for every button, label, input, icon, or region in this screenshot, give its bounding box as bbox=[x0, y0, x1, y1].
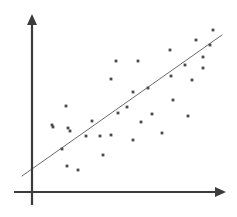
data-point bbox=[51, 124, 54, 127]
data-point bbox=[61, 148, 64, 151]
data-point bbox=[170, 75, 173, 78]
data-point bbox=[137, 60, 140, 63]
data-point bbox=[202, 67, 205, 70]
data-point bbox=[91, 120, 94, 123]
scatter-plot-figure bbox=[0, 0, 237, 217]
data-point bbox=[99, 135, 102, 138]
data-point bbox=[102, 154, 105, 157]
data-point bbox=[212, 29, 215, 32]
data-point bbox=[209, 44, 212, 47]
data-point bbox=[67, 127, 70, 130]
data-point bbox=[132, 139, 135, 142]
data-point bbox=[202, 56, 205, 59]
data-point bbox=[110, 78, 113, 81]
data-point bbox=[65, 105, 68, 108]
data-point bbox=[69, 130, 72, 133]
data-point bbox=[195, 39, 198, 42]
data-point bbox=[140, 121, 143, 124]
data-point bbox=[77, 169, 80, 172]
data-point bbox=[117, 112, 120, 115]
data-point bbox=[191, 79, 194, 82]
data-point bbox=[66, 165, 69, 168]
data-point bbox=[110, 134, 113, 137]
data-point bbox=[126, 106, 129, 109]
data-point bbox=[187, 115, 190, 118]
data-point bbox=[85, 135, 88, 138]
data-point bbox=[172, 99, 175, 102]
data-point bbox=[115, 60, 118, 63]
data-point bbox=[169, 49, 172, 52]
data-point bbox=[151, 113, 154, 116]
plot-canvas bbox=[0, 0, 237, 217]
data-point bbox=[132, 91, 135, 94]
data-point bbox=[184, 64, 187, 67]
data-point bbox=[147, 87, 150, 90]
data-point bbox=[161, 132, 164, 135]
